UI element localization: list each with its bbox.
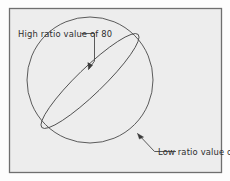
low-ratio-callout-label: Low ratio value of 0 [158,147,224,157]
high-ratio-callout-text: High ratio value of 80 [18,29,112,39]
high-ratio-callout-label: High ratio value of 80 [18,29,82,39]
figure-container: High ratio value of 80 Low ratio value o… [0,0,230,181]
low-ratio-callout-text: Low ratio value of 0 [158,147,230,157]
